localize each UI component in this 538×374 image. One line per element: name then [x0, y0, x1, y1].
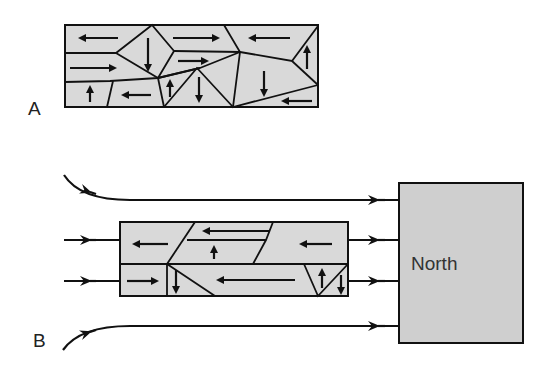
north-label: North — [411, 253, 457, 275]
panel-a-block — [65, 25, 318, 107]
diagram-canvas — [0, 0, 538, 374]
panel-b-label: B — [33, 330, 46, 352]
panel-a-label: A — [28, 98, 41, 120]
panel-b-block — [120, 222, 348, 296]
